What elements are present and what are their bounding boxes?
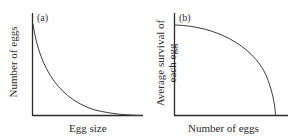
panel-a-y-axis-label: Number of eggs [7, 22, 19, 102]
panel-a-label: (a) [37, 13, 48, 23]
panel-b-label: (b) [179, 13, 191, 23]
panel-b-y-axis-label-line1: Average survival of [154, 13, 166, 113]
panel-a-x-axis-label: Egg size [69, 123, 107, 134]
panel-a-axes [32, 13, 143, 116]
panel-b-x-axis-label: Number of eggs [188, 123, 259, 134]
panel-a-curve [33, 24, 140, 116]
panel-b-axes [174, 13, 288, 116]
panel-b-y-axis-label: Average survival of each egg [154, 13, 178, 113]
panel-b-curve [175, 25, 276, 116]
panel-b-y-axis-label-line2: each egg [166, 13, 178, 113]
